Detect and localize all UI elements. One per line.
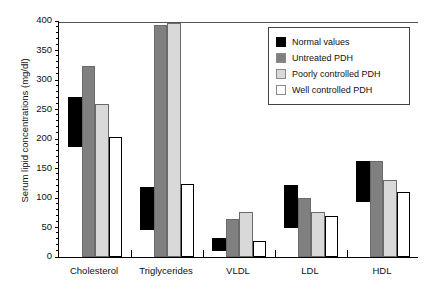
y-tick-mark (55, 80, 60, 81)
y-minor-tick (56, 203, 59, 204)
x-axis-separator (203, 250, 204, 257)
bar[interactable] (154, 25, 168, 257)
y-minor-tick (56, 209, 59, 210)
x-axis-label: LDL (274, 265, 346, 276)
y-axis-title: Serum lipid concentrations (mg/dl) (19, 21, 30, 241)
y-tick-mark (55, 139, 60, 140)
bar[interactable] (181, 184, 195, 257)
legend-item[interactable]: Normal values (276, 34, 402, 50)
legend-swatch (276, 37, 286, 47)
y-minor-tick (56, 85, 59, 86)
x-axis-separator (347, 250, 348, 257)
x-axis-label: Triglycerides (130, 265, 202, 276)
chart-legend: Normal valuesUntreated PDHPoorly control… (268, 27, 410, 105)
y-minor-tick (56, 97, 59, 98)
bar[interactable] (95, 104, 109, 257)
bar-group (212, 22, 266, 257)
y-minor-tick (56, 191, 59, 192)
y-minor-tick (56, 73, 59, 74)
y-minor-tick (56, 61, 59, 62)
y-tick-label: 300 (36, 73, 52, 84)
y-minor-tick (56, 215, 59, 216)
y-minor-tick (56, 162, 59, 163)
y-tick-label: 50 (41, 221, 52, 232)
bar[interactable] (298, 198, 312, 257)
y-minor-tick (56, 120, 59, 121)
bar-group (68, 22, 122, 257)
y-minor-tick (56, 144, 59, 145)
bar[interactable] (383, 180, 397, 257)
bar[interactable] (167, 23, 181, 257)
y-minor-tick (56, 156, 59, 157)
y-tick-mark (55, 21, 60, 22)
bar[interactable] (370, 161, 384, 257)
y-minor-tick (56, 26, 59, 27)
y-tick-mark (55, 257, 60, 258)
bar[interactable] (226, 219, 240, 257)
bar[interactable] (109, 137, 123, 257)
y-tick-mark (55, 109, 60, 110)
bar[interactable] (311, 212, 325, 257)
bar[interactable] (356, 161, 370, 202)
legend-swatch (276, 53, 286, 63)
y-minor-tick (56, 179, 59, 180)
x-axis-label: VLDL (202, 265, 274, 276)
y-minor-tick (56, 91, 59, 92)
y-minor-tick (56, 185, 59, 186)
y-minor-tick (56, 38, 59, 39)
bar[interactable] (397, 192, 411, 257)
y-tick-label: 350 (36, 44, 52, 55)
legend-item[interactable]: Well controlled PDH (276, 82, 402, 98)
y-tick-mark (55, 198, 60, 199)
y-minor-tick (56, 150, 59, 151)
y-minor-tick (56, 132, 59, 133)
y-minor-tick (56, 55, 59, 56)
y-minor-tick (56, 32, 59, 33)
bar[interactable] (212, 238, 226, 251)
y-tick-label: 150 (36, 162, 52, 173)
legend-label: Poorly controlled PDH (292, 69, 381, 79)
legend-swatch (276, 85, 286, 95)
legend-label: Untreated PDH (292, 53, 353, 63)
legend-item[interactable]: Untreated PDH (276, 50, 402, 66)
y-minor-tick (56, 238, 59, 239)
bar[interactable] (82, 66, 96, 257)
bar[interactable] (68, 97, 82, 148)
y-minor-tick (56, 173, 59, 174)
y-tick-label: 400 (36, 14, 52, 25)
y-tick-mark (55, 50, 60, 51)
y-minor-tick (56, 244, 59, 245)
y-minor-tick (56, 126, 59, 127)
y-minor-tick (56, 44, 59, 45)
legend-label: Well controlled PDH (292, 85, 372, 95)
y-tick-mark (55, 227, 60, 228)
y-tick-label: 200 (36, 132, 52, 143)
chart-figure: Serum lipid concentrations (mg/dl) 05010… (0, 0, 425, 291)
y-tick-label: 250 (36, 103, 52, 114)
x-axis-separator (131, 250, 132, 257)
bar[interactable] (239, 212, 253, 257)
bar[interactable] (140, 187, 154, 230)
y-minor-tick (56, 103, 59, 104)
y-tick-label: 100 (36, 191, 52, 202)
bar[interactable] (253, 241, 267, 257)
x-axis-label: Cholesterol (58, 265, 130, 276)
y-tick-label: 0 (47, 250, 52, 261)
x-axis-separator (275, 250, 276, 257)
y-minor-tick (56, 221, 59, 222)
y-tick-mark (55, 168, 60, 169)
bar[interactable] (284, 185, 298, 227)
legend-item[interactable]: Poorly controlled PDH (276, 66, 402, 82)
y-minor-tick (56, 114, 59, 115)
y-minor-tick (56, 250, 59, 251)
legend-label: Normal values (292, 37, 350, 47)
x-axis-label: HDL (346, 265, 418, 276)
y-minor-tick (56, 232, 59, 233)
y-minor-tick (56, 67, 59, 68)
bar-group (140, 22, 194, 257)
bar[interactable] (325, 216, 339, 257)
legend-swatch (276, 69, 286, 79)
